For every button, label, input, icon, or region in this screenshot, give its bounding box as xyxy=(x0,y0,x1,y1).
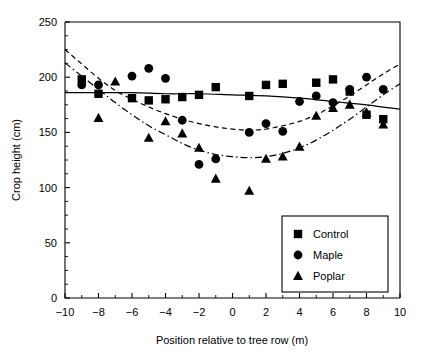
x-tick-label: 10 xyxy=(394,306,406,318)
data-point-control xyxy=(329,75,337,83)
x-tick-label: −6 xyxy=(126,306,139,318)
data-point-control xyxy=(178,93,186,101)
data-point-maple xyxy=(295,97,304,106)
data-point-control xyxy=(161,95,169,103)
data-point-maple xyxy=(211,154,220,163)
circle-icon xyxy=(294,251,303,260)
data-point-control xyxy=(145,96,153,104)
data-point-control xyxy=(212,83,220,91)
legend-item-control[interactable]: Control xyxy=(294,228,349,240)
y-tick-label: 200 xyxy=(39,71,57,83)
legend-label-control: Control xyxy=(313,228,348,240)
y-tick-label: 50 xyxy=(45,237,57,249)
y-tick-label: 0 xyxy=(51,292,57,304)
x-tick-label: 4 xyxy=(296,306,302,318)
data-point-maple xyxy=(262,119,271,128)
x-tick-label: 0 xyxy=(229,306,235,318)
chart-figure: 050100150200250 −10−8−6−4−20246810 Posit… xyxy=(0,0,424,354)
data-point-maple xyxy=(94,81,103,90)
data-point-maple xyxy=(345,85,354,94)
data-point-control xyxy=(245,92,253,100)
crop-height-scatter-plot: 050100150200250 −10−8−6−4−20246810 Posit… xyxy=(0,0,424,354)
data-point-maple xyxy=(278,127,287,136)
data-point-maple xyxy=(245,128,254,137)
x-tick-label: −10 xyxy=(56,306,75,318)
y-axis-title: Crop height (cm) xyxy=(10,119,22,201)
data-point-maple xyxy=(178,116,187,125)
x-tick-label: 2 xyxy=(263,306,269,318)
data-point-maple xyxy=(144,64,153,73)
y-tick-label: 150 xyxy=(39,126,57,138)
x-tick-label: −4 xyxy=(159,306,172,318)
data-point-maple xyxy=(195,160,204,169)
data-point-control xyxy=(94,90,102,98)
data-point-control xyxy=(195,91,203,99)
data-point-control xyxy=(312,79,320,87)
square-icon xyxy=(294,230,302,238)
data-point-maple xyxy=(312,92,321,101)
data-point-maple xyxy=(379,85,388,94)
data-point-control xyxy=(128,94,136,102)
data-point-control xyxy=(279,80,287,88)
x-tick-label: −2 xyxy=(193,306,206,318)
y-tick-label: 250 xyxy=(39,16,57,28)
x-tick-label: −8 xyxy=(92,306,105,318)
x-axis-title: Position relative to tree row (m) xyxy=(156,334,308,346)
data-point-maple xyxy=(362,73,371,82)
figure-background xyxy=(0,0,424,354)
x-tick-label: 6 xyxy=(330,306,336,318)
legend-label-maple: Maple xyxy=(313,249,343,261)
chart-legend: ControlMaplePoplar xyxy=(282,216,388,292)
x-tick-label: 8 xyxy=(363,306,369,318)
data-point-maple xyxy=(161,74,170,83)
data-point-maple xyxy=(128,72,137,81)
legend-label-poplar: Poplar xyxy=(313,270,345,282)
data-point-maple xyxy=(77,81,86,90)
data-point-control xyxy=(262,81,270,89)
y-tick-label: 100 xyxy=(39,182,57,194)
